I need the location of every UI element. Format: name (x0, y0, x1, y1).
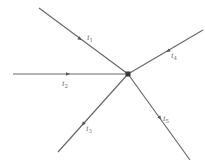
arrow-i2-icon (66, 72, 70, 76)
branch-wires (13, 8, 203, 160)
label-i4: i4 (171, 51, 178, 61)
wire-i3 (58, 74, 128, 152)
wire-i1 (39, 8, 128, 74)
wire-i4 (128, 30, 203, 74)
current-junction-diagram: i1i2i3i4i5 (0, 0, 205, 167)
label-i3: i3 (86, 124, 93, 134)
label-i1: i1 (87, 33, 93, 43)
label-i5: i5 (163, 114, 170, 124)
label-i2: i2 (62, 79, 68, 89)
junction-node (126, 72, 131, 77)
